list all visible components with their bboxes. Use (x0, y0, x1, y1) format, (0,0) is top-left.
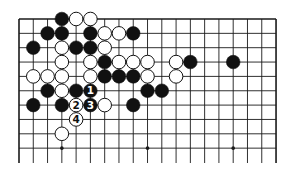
white-stone (55, 84, 69, 98)
black-stone (69, 84, 83, 98)
black-stone (55, 98, 69, 112)
white-stone (41, 70, 55, 84)
numbered-white-stone: 4 (69, 113, 83, 127)
star-point (231, 146, 235, 150)
black-stone (26, 98, 40, 112)
white-stone (126, 55, 140, 69)
move-number-label: 1 (87, 84, 94, 96)
white-stone (84, 12, 98, 26)
black-stone (126, 27, 140, 41)
white-stone (98, 27, 112, 41)
move-number-label: 4 (72, 113, 79, 125)
white-stone (69, 12, 83, 26)
white-stone (55, 41, 69, 55)
move-number-label: 3 (87, 99, 94, 111)
white-stone (98, 98, 112, 112)
white-stone (169, 55, 183, 69)
black-stone (112, 70, 126, 84)
white-stone (112, 27, 126, 41)
white-stone (98, 41, 112, 55)
black-stone (141, 84, 155, 98)
white-stone (169, 70, 183, 84)
black-stone (98, 70, 112, 84)
numbered-white-stone: 2 (69, 98, 83, 112)
star-point (60, 146, 64, 150)
white-stone (55, 127, 69, 141)
black-stone (55, 27, 69, 41)
numbered-black-stone: 1 (84, 84, 98, 98)
black-stone (55, 12, 69, 26)
white-stone (141, 70, 155, 84)
black-stone (84, 41, 98, 55)
black-stone (41, 27, 55, 41)
black-stone (155, 84, 169, 98)
numbered-black-stone: 3 (84, 98, 98, 112)
black-stone (26, 41, 40, 55)
white-stone (84, 70, 98, 84)
black-stone (126, 70, 140, 84)
white-stone (84, 55, 98, 69)
move-number-label: 2 (72, 99, 79, 111)
white-stone (112, 55, 126, 69)
black-stone (184, 55, 198, 69)
black-stone (41, 84, 55, 98)
white-stone (26, 70, 40, 84)
black-stone (84, 27, 98, 41)
star-point (146, 146, 150, 150)
white-stone (55, 55, 69, 69)
black-stone (226, 55, 240, 69)
go-board-diagram: 1234 (0, 0, 290, 176)
black-stone (98, 55, 112, 69)
black-stone (69, 41, 83, 55)
white-stone (55, 70, 69, 84)
white-stone (141, 55, 155, 69)
black-stone (126, 98, 140, 112)
